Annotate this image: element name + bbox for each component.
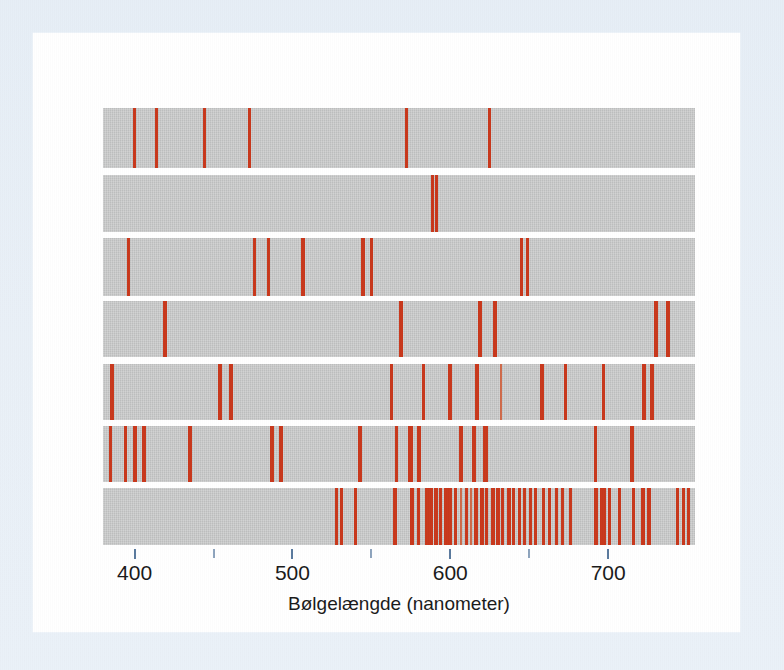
- spectral-line: [555, 488, 558, 545]
- spectral-line: [127, 238, 130, 296]
- axis-tick-minor: [370, 549, 372, 558]
- spectral-line: [500, 364, 502, 420]
- spectral-line: [395, 426, 398, 482]
- spectral-line: [399, 301, 403, 357]
- axis-tick-label: 400: [90, 561, 180, 585]
- axis-tick-major: [291, 549, 293, 559]
- spectral-line: [518, 488, 521, 545]
- spectrum-row-cs: [103, 364, 695, 420]
- spectral-line: [488, 108, 491, 168]
- axis-tick-major: [134, 549, 136, 559]
- spectral-line: [454, 488, 457, 545]
- spectral-line: [435, 175, 438, 232]
- spectral-line: [480, 488, 484, 545]
- spectral-line: [594, 488, 598, 545]
- spectral-line: [270, 426, 274, 482]
- spectral-line: [520, 238, 523, 296]
- spectral-line: [608, 488, 611, 545]
- spectral-line: [642, 364, 646, 420]
- spectral-line: [229, 364, 233, 420]
- spectral-line: [493, 301, 497, 357]
- spectral-line: [439, 488, 442, 545]
- spectral-line: [301, 238, 305, 296]
- spectral-line: [542, 488, 545, 545]
- spectral-line: [444, 488, 448, 545]
- axis-tick-minor: [528, 549, 530, 558]
- spectral-line: [602, 364, 605, 420]
- spectral-line: [393, 488, 397, 545]
- spectral-line: [526, 238, 529, 296]
- spectrum-row-rb: [103, 301, 695, 357]
- spectral-line: [448, 488, 452, 545]
- spectral-line: [569, 488, 572, 545]
- spectral-line: [618, 488, 621, 545]
- spectral-line: [354, 488, 357, 545]
- spectral-line: [470, 488, 472, 545]
- spectra-plot-area: LiNaKRbCsHgNe: [103, 108, 695, 545]
- spectrum-row-hg: [103, 426, 695, 482]
- spectral-line: [163, 301, 167, 357]
- spectral-line: [478, 301, 482, 357]
- spectral-line: [496, 488, 500, 545]
- spectral-line: [358, 426, 362, 482]
- spectral-line: [417, 488, 420, 545]
- spectral-line: [687, 488, 690, 545]
- spectral-line: [564, 364, 567, 420]
- spectral-line: [340, 488, 343, 545]
- spectral-line: [676, 488, 679, 545]
- axis-tick-minor: [213, 549, 215, 558]
- spectral-line: [390, 364, 393, 420]
- spectrum-row-k: [103, 238, 695, 296]
- spectral-line: [459, 426, 463, 482]
- spectral-line: [561, 488, 564, 545]
- axis-tick-major: [449, 549, 451, 559]
- spectrum-row-li: [103, 108, 695, 168]
- spectral-line: [475, 364, 479, 420]
- spectral-line: [491, 488, 495, 545]
- spectral-line: [203, 108, 206, 168]
- spectral-line: [666, 301, 670, 357]
- figure-root: LiNaKRbCsHgNe Bølgelængde (nanometer) 40…: [0, 0, 784, 670]
- spectral-line: [109, 426, 112, 482]
- spectral-line: [483, 426, 488, 482]
- spectral-line: [472, 426, 476, 482]
- spectral-line: [410, 488, 414, 545]
- spectrum-row-ne: [103, 488, 695, 545]
- spectral-line: [429, 488, 433, 545]
- spectral-line: [641, 488, 645, 545]
- spectral-line: [448, 364, 452, 420]
- spectral-line: [529, 488, 532, 545]
- spectral-line: [133, 108, 136, 168]
- spectral-line: [600, 488, 606, 545]
- spectral-line: [422, 364, 425, 420]
- axis-tick-label: 500: [247, 561, 337, 585]
- spectral-line: [253, 238, 256, 296]
- spectral-line: [682, 488, 685, 545]
- spectral-line: [647, 488, 651, 545]
- spectral-line: [361, 238, 365, 296]
- spectral-line: [523, 488, 526, 545]
- axis-tick-label: 700: [563, 561, 653, 585]
- spectral-line: [405, 108, 408, 168]
- spectral-line: [248, 108, 251, 168]
- spectral-line: [632, 488, 635, 545]
- spectral-line: [630, 426, 634, 482]
- spectrum-row-na: [103, 175, 695, 232]
- spectral-line: [650, 364, 654, 420]
- spectral-line: [408, 426, 413, 482]
- spectral-line: [218, 364, 222, 420]
- spectral-line: [465, 488, 468, 545]
- spectral-line: [594, 426, 597, 482]
- axis-title: Bølgelængde (nanometer): [103, 593, 695, 615]
- spectral-line: [540, 364, 544, 420]
- spectral-line: [188, 426, 192, 482]
- spectral-line: [548, 488, 551, 545]
- spectral-line: [417, 426, 421, 482]
- spectral-line: [267, 238, 270, 296]
- spectral-line: [460, 488, 462, 545]
- spectral-line: [142, 426, 146, 482]
- spectral-line: [474, 488, 478, 545]
- spectral-line: [507, 488, 511, 545]
- axis-tick-major: [607, 549, 609, 559]
- spectral-line: [501, 488, 504, 545]
